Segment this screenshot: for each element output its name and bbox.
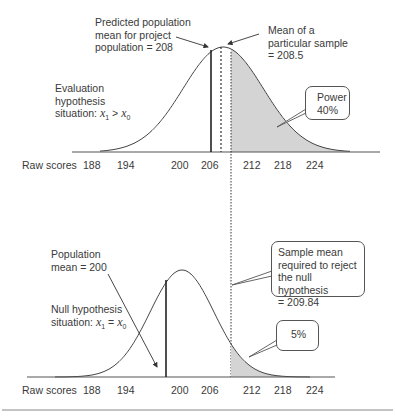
tick-label: 188 xyxy=(83,159,101,171)
alpha-callout: 5% xyxy=(276,320,319,351)
condition-lhs-sub: 1 xyxy=(101,323,105,330)
tick-label: 224 xyxy=(306,159,324,171)
label-line: Evaluation xyxy=(55,82,130,95)
label-line: Null hypothesis xyxy=(51,303,126,316)
annotation-line: Predicted population xyxy=(95,16,191,29)
power-value: 40% xyxy=(317,104,349,117)
condition-lhs-sub: 1 xyxy=(105,114,109,121)
x-axis-label: Raw scores xyxy=(22,159,77,171)
tick-label: 194 xyxy=(117,384,135,396)
critical-value-callout: Sample mean required to reject the null … xyxy=(271,241,365,297)
alpha-value: 5% xyxy=(291,328,318,341)
sample-mean-arrow xyxy=(228,34,259,44)
annotation-line: particular sample xyxy=(268,37,348,50)
tick-label: 200 xyxy=(171,159,189,171)
tick-label: 200 xyxy=(171,384,189,396)
callout-line: required to reject xyxy=(278,259,364,272)
tick-label: 212 xyxy=(243,384,261,396)
condition-op: > xyxy=(112,107,118,119)
condition-line: situation: x1 > x0 xyxy=(55,107,130,125)
annotation-line: population = 208 xyxy=(95,41,191,54)
condition-rhs-sub: 0 xyxy=(127,114,131,121)
null-hypothesis-label: Null hypothesis situation: x1 = x0 xyxy=(51,303,126,333)
annotation-line: Population xyxy=(51,248,107,261)
tick-label: 224 xyxy=(306,384,324,396)
condition-prefix: situation: xyxy=(55,107,100,119)
power-callout: Power 40% xyxy=(305,86,350,120)
diagram-canvas xyxy=(0,0,395,418)
condition-op: = xyxy=(108,316,114,328)
sample-mean-annotation: Mean of a particular sample = 208.5 xyxy=(268,24,348,62)
tick-label: 206 xyxy=(201,159,219,171)
tick-label: 188 xyxy=(83,384,101,396)
condition-rhs-sub: 0 xyxy=(123,323,127,330)
tick-label: 212 xyxy=(243,159,261,171)
condition-line: situation: x1 = x0 xyxy=(51,316,126,334)
power-label: Power xyxy=(317,91,349,104)
tick-label: 218 xyxy=(274,384,292,396)
tick-label: 194 xyxy=(117,159,135,171)
critical-callout-pointer xyxy=(232,271,272,285)
alpha-callout-pointer xyxy=(249,340,277,357)
annotation-line: = 208.5 xyxy=(268,49,348,62)
label-line: hypothesis xyxy=(55,95,130,108)
annotation-line: mean = 200 xyxy=(51,261,107,274)
annotation-line: Mean of a xyxy=(268,24,348,37)
callout-line: = 209.84 xyxy=(278,296,364,309)
callout-line: Sample mean xyxy=(278,246,364,259)
population-mean-annotation: Population mean = 200 xyxy=(51,248,107,273)
x-axis-label: Raw scores xyxy=(22,384,77,396)
evaluation-hypothesis-label: Evaluation hypothesis situation: x1 > x0 xyxy=(55,82,130,125)
condition-prefix: situation: xyxy=(51,316,96,328)
callout-line: the null hypothesis xyxy=(278,271,364,296)
predicted-mean-annotation: Predicted population mean for project po… xyxy=(95,16,191,54)
annotation-line: mean for project xyxy=(95,29,191,42)
tick-label: 206 xyxy=(201,384,219,396)
tick-label: 218 xyxy=(274,159,292,171)
